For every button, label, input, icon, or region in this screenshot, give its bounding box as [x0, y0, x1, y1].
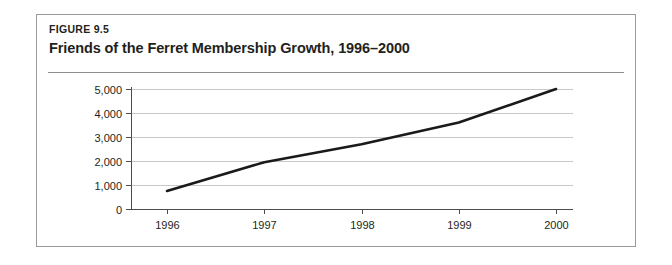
y-axis-labels: 01,0002,0003,0004,0005,000 [94, 84, 122, 216]
y-axis-ticks [126, 90, 131, 210]
x-tick-label: 1996 [155, 219, 179, 231]
gridlines [131, 90, 573, 186]
x-tick-label: 1998 [350, 219, 374, 231]
y-tick-label: 3,000 [94, 132, 122, 144]
line-chart: 01,0002,0003,0004,0005,000 1996199719981… [37, 15, 637, 248]
data-series-membership [167, 89, 556, 191]
y-tick-label: 5,000 [94, 84, 122, 96]
x-tick-label: 1997 [252, 219, 276, 231]
chart-svg: 01,0002,0003,0004,0005,000 1996199719981… [37, 15, 637, 248]
y-tick-label: 4,000 [94, 108, 122, 120]
y-tick-label: 0 [116, 204, 122, 216]
figure-card: FIGURE 9.5 Friends of the Ferret Members… [36, 14, 636, 247]
x-tick-label: 2000 [544, 219, 568, 231]
x-axis-labels: 19961997199819992000 [155, 219, 568, 231]
y-tick-label: 1,000 [94, 180, 122, 192]
x-tick-label: 1999 [447, 219, 471, 231]
y-tick-label: 2,000 [94, 156, 122, 168]
